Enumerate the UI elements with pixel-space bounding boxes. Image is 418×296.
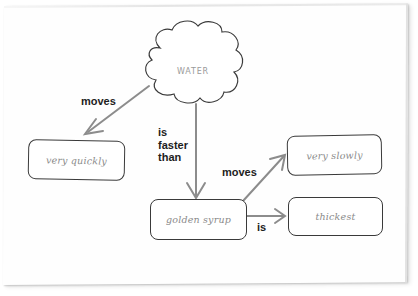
link-label-is-faster-than: is faster than bbox=[158, 126, 188, 164]
node-very-slowly: very slowly bbox=[287, 134, 383, 176]
arrow-water-to-golden-syrup bbox=[187, 104, 205, 198]
node-very-slowly-label: very slowly bbox=[306, 149, 362, 161]
node-golden-syrup: golden syrup bbox=[150, 199, 247, 240]
node-very-quickly-label: very quickly bbox=[46, 154, 107, 166]
cloud-shape-water bbox=[146, 21, 243, 103]
node-thickest-label: thickest bbox=[316, 211, 356, 222]
link-label-line: faster bbox=[158, 139, 188, 152]
link-label-line: is bbox=[158, 126, 188, 139]
node-golden-syrup-label: golden syrup bbox=[166, 214, 231, 225]
arrow-water-to-very-quickly bbox=[85, 86, 149, 134]
node-thickest: thickest bbox=[288, 197, 383, 236]
link-label-moves-1: moves bbox=[81, 95, 116, 108]
link-label-moves-2: moves bbox=[222, 166, 257, 179]
link-label-is: is bbox=[257, 221, 266, 234]
link-label-line: than bbox=[158, 151, 188, 164]
node-water-label: WATER bbox=[168, 67, 218, 76]
node-very-quickly: very quickly bbox=[28, 139, 126, 181]
